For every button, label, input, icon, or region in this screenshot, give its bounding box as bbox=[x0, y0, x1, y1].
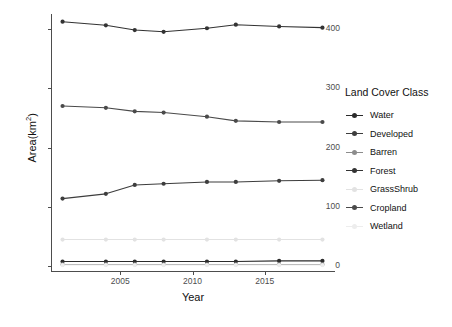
legend-item-wetland[interactable]: Wetland bbox=[345, 217, 452, 236]
legend-label: Developed bbox=[364, 129, 413, 139]
data-point bbox=[162, 30, 166, 34]
data-point bbox=[162, 110, 166, 114]
y-tick-label: 100 bbox=[296, 202, 340, 211]
data-point bbox=[320, 237, 324, 241]
legend-label: Barren bbox=[364, 147, 397, 157]
legend-title: Land Cover Class bbox=[345, 86, 452, 98]
legend-key-dot bbox=[352, 131, 357, 136]
legend-key-dot bbox=[352, 150, 357, 155]
legend-key-icon bbox=[345, 106, 364, 125]
y-tick-mark bbox=[48, 148, 51, 149]
legend-key-dot bbox=[352, 168, 357, 173]
y-tick-label: 300 bbox=[296, 83, 340, 92]
data-point bbox=[133, 237, 137, 241]
chart-root: 0100200300400 200520102015 Year Area(km2… bbox=[0, 0, 452, 327]
y-axis-title-text: Area(km bbox=[26, 121, 38, 163]
y-tick-mark bbox=[48, 266, 51, 267]
series-line bbox=[63, 261, 323, 262]
legend-item-forest[interactable]: Forest bbox=[345, 162, 452, 181]
y-axis-title-suffix: ) bbox=[26, 113, 38, 117]
data-point bbox=[234, 119, 238, 123]
y-tick-label: 200 bbox=[296, 143, 340, 152]
data-point bbox=[205, 26, 209, 30]
legend: Land Cover Class WaterDevelopedBarrenFor… bbox=[345, 86, 452, 236]
series-water bbox=[60, 259, 324, 264]
data-point bbox=[162, 263, 166, 267]
series-line bbox=[63, 106, 323, 122]
legend-item-barren[interactable]: Barren bbox=[345, 143, 452, 162]
legend-item-grassshrub[interactable]: GrassShrub bbox=[345, 180, 452, 199]
data-point bbox=[277, 237, 281, 241]
data-point bbox=[104, 263, 108, 267]
data-point bbox=[133, 109, 137, 113]
series-line bbox=[63, 180, 323, 198]
y-tick-label: 0 bbox=[296, 261, 340, 270]
data-point bbox=[277, 120, 281, 124]
legend-key-dot bbox=[352, 113, 357, 118]
legend-item-developed[interactable]: Developed bbox=[345, 125, 452, 144]
series-developed bbox=[60, 178, 324, 201]
data-point bbox=[60, 263, 64, 267]
legend-key-icon bbox=[345, 199, 364, 218]
x-tick-mark bbox=[120, 272, 121, 275]
data-point bbox=[205, 115, 209, 119]
data-point bbox=[60, 20, 64, 24]
legend-key-icon bbox=[345, 143, 364, 162]
x-tick-label: 2005 bbox=[100, 277, 140, 286]
plot-area: 0100200300400 200520102015 Year Area(km2… bbox=[0, 0, 340, 327]
x-tick-mark bbox=[265, 272, 266, 275]
y-tick-mark bbox=[48, 29, 51, 30]
x-axis-title: Year bbox=[51, 291, 335, 303]
chart-svg bbox=[51, 14, 334, 271]
legend-label: Forest bbox=[364, 166, 396, 176]
data-point bbox=[104, 192, 108, 196]
data-point bbox=[277, 179, 281, 183]
data-point bbox=[162, 182, 166, 186]
data-point bbox=[277, 263, 281, 267]
legend-key-icon bbox=[345, 217, 364, 236]
legend-items: WaterDevelopedBarrenForestGrassShrubCrop… bbox=[345, 106, 452, 236]
data-point bbox=[60, 237, 64, 241]
y-axis-title: Area(km2) bbox=[24, 58, 38, 218]
series-wetland bbox=[60, 263, 324, 267]
series-grassshrub bbox=[60, 237, 324, 241]
legend-label: Wetland bbox=[364, 221, 403, 231]
data-point bbox=[320, 178, 324, 182]
data-point bbox=[277, 24, 281, 28]
data-point bbox=[104, 237, 108, 241]
y-axis-title-exponent: 2 bbox=[24, 117, 33, 121]
data-point bbox=[320, 120, 324, 124]
legend-item-water[interactable]: Water bbox=[345, 106, 452, 125]
y-tick-mark bbox=[48, 207, 51, 208]
x-tick-label: 2010 bbox=[173, 277, 213, 286]
legend-key-icon bbox=[345, 162, 364, 181]
legend-label: GrassShrub bbox=[364, 184, 418, 194]
data-point bbox=[104, 106, 108, 110]
y-tick-mark bbox=[48, 88, 51, 89]
data-point bbox=[234, 237, 238, 241]
legend-key-dot bbox=[352, 187, 357, 192]
series-line bbox=[63, 22, 323, 32]
data-point bbox=[205, 237, 209, 241]
data-point bbox=[60, 104, 64, 108]
legend-key-icon bbox=[345, 180, 364, 199]
data-point bbox=[133, 263, 137, 267]
data-point bbox=[133, 28, 137, 32]
data-point bbox=[234, 180, 238, 184]
legend-key-icon bbox=[345, 125, 364, 144]
legend-item-cropland[interactable]: Cropland bbox=[345, 199, 452, 218]
legend-key-dot bbox=[352, 224, 357, 229]
x-tick-mark bbox=[193, 272, 194, 275]
legend-key-dot bbox=[352, 205, 357, 210]
data-point bbox=[60, 196, 64, 200]
y-axis-line bbox=[51, 14, 52, 272]
series-forest bbox=[60, 20, 324, 34]
data-point bbox=[234, 263, 238, 267]
data-point bbox=[104, 23, 108, 27]
series-cropland bbox=[60, 104, 324, 124]
data-point bbox=[234, 23, 238, 27]
chart-panel bbox=[51, 14, 334, 271]
y-tick-label: 400 bbox=[296, 24, 340, 33]
data-point bbox=[133, 183, 137, 187]
data-point bbox=[162, 237, 166, 241]
